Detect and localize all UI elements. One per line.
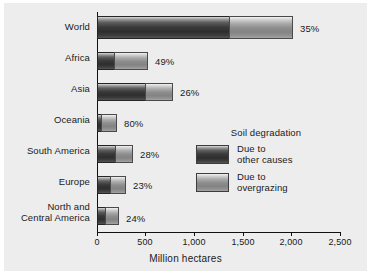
- x-axis-line: [97, 232, 341, 233]
- bar-south-america-overgrazing: [115, 145, 133, 163]
- bar-europe-overgrazing: [110, 176, 126, 194]
- x-tick-label-2500: 2,500: [328, 237, 351, 247]
- legend: Soil degradation Due to other causes Due…: [196, 127, 336, 200]
- x-tick-0: [97, 232, 98, 236]
- y-axis-label-africa: Africa: [65, 53, 90, 64]
- x-tick-label-500: 500: [137, 237, 152, 247]
- bar-africa-other-causes: [97, 52, 115, 70]
- bar-asia-other-causes: [97, 83, 146, 101]
- bar-chart: World Africa Asia Oceania South America …: [0, 0, 371, 274]
- bar-world-overgrazing: [229, 16, 293, 39]
- bar-north-and-central-america-overgrazing: [105, 207, 119, 225]
- bar-europe-other-causes: [97, 176, 111, 194]
- x-tick-2000: [291, 232, 292, 236]
- x-tick-label-0: 0: [94, 237, 99, 247]
- legend-label-overgrazing: Due to overgrazing: [237, 172, 288, 193]
- x-tick-label-1500: 1,500: [231, 237, 254, 247]
- bar-label-asia: 26%: [180, 87, 199, 98]
- bar-label-south-america: 28%: [140, 149, 159, 160]
- legend-swatch-overgrazing: [196, 173, 229, 192]
- bar-label-world: 35%: [300, 23, 319, 34]
- y-axis-label-oceania: Oceania: [54, 115, 90, 126]
- legend-label-other-causes: Due to other causes: [237, 144, 293, 165]
- bar-africa-overgrazing: [114, 52, 148, 70]
- bar-label-africa: 49%: [155, 56, 174, 67]
- x-tick-label-2000: 2,000: [279, 237, 302, 247]
- y-axis-label-asia: Asia: [71, 84, 90, 95]
- x-tick-1500: [243, 232, 244, 236]
- x-tick-2500: [340, 232, 341, 236]
- x-axis-title: Million hectares: [0, 253, 371, 264]
- legend-item-overgrazing: Due to overgrazing: [196, 172, 336, 193]
- y-axis-label-europe: Europe: [59, 177, 90, 188]
- bar-world-other-causes: [97, 16, 230, 39]
- x-tick-label-1000: 1,000: [182, 237, 205, 247]
- bar-label-europe: 23%: [133, 180, 152, 191]
- x-tick-500: [145, 232, 146, 236]
- bar-oceania-overgrazing: [101, 114, 117, 132]
- bar-label-north-and-central-america: 24%: [126, 213, 145, 224]
- y-axis-label-world: World: [65, 22, 90, 33]
- legend-swatch-other-causes: [196, 145, 229, 164]
- bar-south-america-other-causes: [97, 145, 116, 163]
- x-tick-1000: [194, 232, 195, 236]
- bar-label-oceania: 80%: [124, 118, 143, 129]
- y-axis-label-north-and-central-america: North and Central America: [21, 202, 90, 223]
- legend-title: Soil degradation: [196, 127, 336, 138]
- legend-item-other-causes: Due to other causes: [196, 144, 336, 165]
- bar-asia-overgrazing: [145, 83, 173, 101]
- y-axis-label-south-america: South America: [27, 146, 90, 157]
